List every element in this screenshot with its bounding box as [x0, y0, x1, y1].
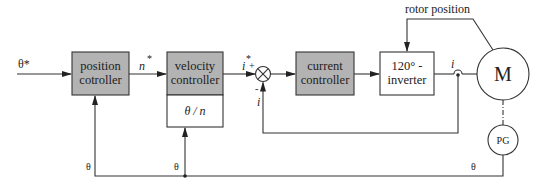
velocity-controller-sub-label: θ / n — [184, 104, 205, 118]
motor-label: M — [494, 63, 512, 85]
theta-pg-label: θ — [471, 161, 476, 172]
rotor-position-label: rotor position — [405, 2, 470, 16]
rotor-position-path — [407, 19, 493, 51]
speed-ref-label: n — [139, 59, 145, 73]
velocity-controller-block: velocity controller θ / n — [167, 52, 223, 127]
position-controller-label-2: cotroller — [79, 73, 122, 87]
position-feedback-path — [95, 96, 503, 176]
current-out-label: i — [451, 57, 454, 71]
theta-position-fb-label: θ — [86, 161, 91, 172]
theta-star-label: θ* — [18, 57, 30, 71]
feedback-branch-node — [183, 174, 187, 178]
control-block-diagram: θ* position cotroller n * velocity contr… — [0, 0, 545, 188]
speed-ref-star: * — [147, 53, 152, 64]
current-controller-label-2: controller — [301, 73, 350, 87]
summing-junction — [256, 67, 271, 82]
plus-sign: + — [249, 60, 255, 71]
motor: M — [477, 48, 529, 100]
inverter-block: 120° - inverter — [380, 52, 434, 95]
inverter-label-2: inverter — [388, 73, 428, 87]
inverter-label-1: 120° - — [391, 59, 422, 73]
theta-velocity-fb-label: θ — [174, 161, 179, 172]
position-controller-label-1: position — [80, 59, 121, 73]
velocity-controller-label-2: controller — [171, 73, 220, 87]
position-controller-block: position cotroller — [72, 52, 129, 95]
velocity-controller-label-1: velocity — [175, 59, 216, 73]
current-feedback-label: i — [257, 95, 260, 109]
minus-sign: - — [255, 83, 258, 94]
reference-input: θ* — [17, 57, 71, 74]
pulse-generator: PG — [488, 125, 518, 155]
current-controller-label-1: current — [307, 59, 343, 73]
pg-label: PG — [497, 135, 510, 146]
current-controller-block: current controller — [296, 52, 354, 95]
current-ref-label: i — [242, 59, 245, 73]
